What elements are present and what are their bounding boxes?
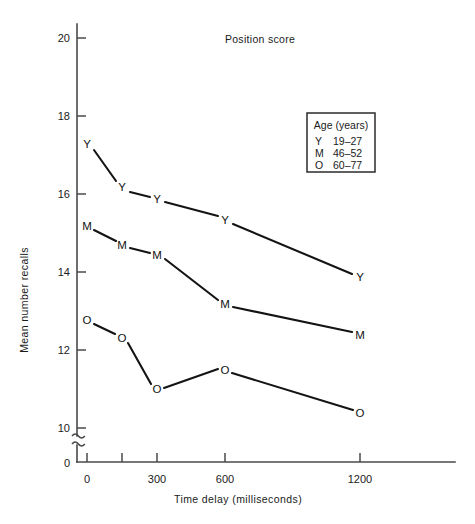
y-tick-label: 12: [58, 344, 70, 356]
chart-figure: 20 18 16 14 12 10 0 Mean number recalls …: [0, 0, 475, 524]
series-old: O O O O O: [83, 314, 365, 419]
data-point-marker: M: [152, 249, 162, 261]
y-tick-label: 10: [58, 422, 70, 434]
legend: Age (years) Y 19–27 M 46–52 O 60–77: [307, 113, 375, 172]
y-axis: 20 18 16 14 12 10 0 Mean number recalls: [18, 24, 86, 469]
data-point-marker: Y: [221, 214, 229, 226]
position-score-line-chart: 20 18 16 14 12 10 0 Mean number recalls …: [0, 0, 475, 524]
x-axis: 0 300 600 1200 Time delay (milliseconds): [77, 453, 455, 505]
data-point-marker: M: [117, 239, 127, 251]
y-axis-break-icon: [72, 434, 85, 446]
legend-symbol-old: O: [315, 159, 323, 171]
x-tick-label: 600: [216, 473, 234, 485]
legend-symbol-middle: M: [315, 147, 324, 159]
chart-title: Position score: [225, 33, 295, 45]
legend-range-old: 60–77: [333, 159, 362, 171]
data-point-marker: O: [153, 383, 162, 395]
data-point-marker: M: [220, 298, 230, 310]
x-axis-ticks: [87, 453, 360, 462]
series-middle: M M M M M: [82, 220, 365, 341]
y-axis-tick-labels: 20 18 16 14 12 10 0: [58, 32, 70, 469]
y-axis-label: Mean number recalls: [18, 247, 30, 353]
legend-range-young: 19–27: [333, 135, 362, 147]
data-point-marker: O: [356, 407, 365, 419]
data-point-marker: M: [82, 220, 92, 232]
data-point-marker: Y: [153, 193, 161, 205]
data-point-marker: Y: [356, 271, 364, 283]
y-axis-ticks: [77, 38, 86, 428]
x-tick-label: 0: [84, 473, 90, 485]
data-point-marker: Y: [83, 138, 91, 150]
data-point-marker: O: [221, 364, 230, 376]
y-tick-label: 18: [58, 110, 70, 122]
data-point-marker: M: [355, 329, 365, 341]
data-point-marker: O: [118, 332, 127, 344]
x-tick-label: 300: [148, 473, 166, 485]
x-tick-label: 1200: [348, 473, 372, 485]
y-tick-label-zero: 0: [64, 457, 70, 469]
legend-range-middle: 46–52: [333, 147, 362, 159]
data-point-marker: O: [83, 314, 92, 326]
x-axis-tick-labels: 0 300 600 1200: [84, 473, 372, 485]
y-tick-label: 20: [58, 32, 70, 44]
legend-symbol-young: Y: [315, 135, 322, 147]
x-axis-label: Time delay (milliseconds): [174, 493, 302, 505]
data-point-marker: Y: [118, 181, 126, 193]
legend-title: Age (years): [314, 119, 368, 131]
y-tick-label: 16: [58, 188, 70, 200]
y-tick-label: 14: [58, 266, 70, 278]
